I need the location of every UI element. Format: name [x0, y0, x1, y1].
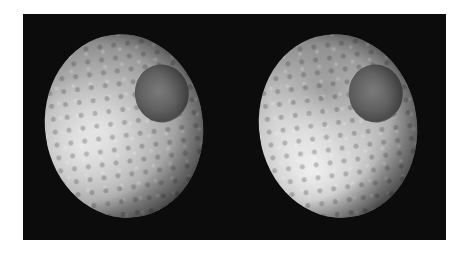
terminator-shadow — [247, 24, 429, 228]
image-frame — [23, 14, 446, 240]
moon-right-view — [247, 24, 429, 228]
moon-left-view — [33, 24, 215, 228]
terminator-shadow — [33, 24, 215, 228]
